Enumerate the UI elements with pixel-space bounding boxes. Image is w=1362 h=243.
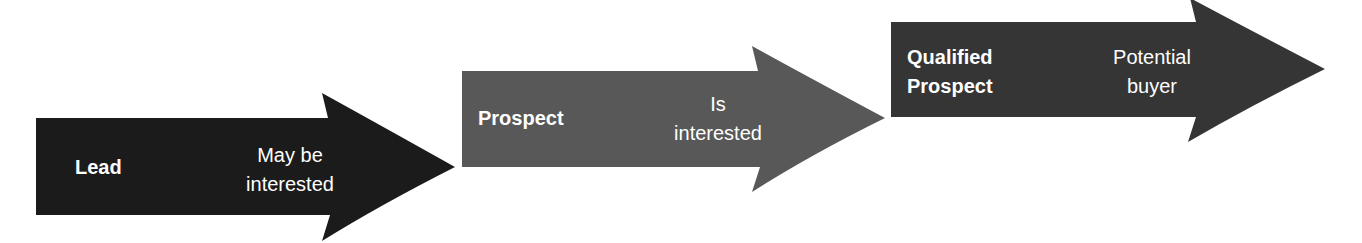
stage-name-prospect: Prospect: [478, 104, 564, 133]
description-line: interested: [220, 170, 360, 199]
stage-name-text: Prospect: [907, 72, 993, 101]
stage-name-text: Lead: [75, 156, 122, 178]
description-line: Is: [648, 90, 788, 119]
stage-description-qualified-prospect: Potential buyer: [1082, 43, 1222, 101]
description-line: buyer: [1082, 72, 1222, 101]
description-line: May be: [220, 141, 360, 170]
stage-description-prospect: Is interested: [648, 90, 788, 148]
stage-name-text: Prospect: [478, 107, 564, 129]
stage-name-qualified-prospect: Qualified Prospect: [907, 43, 993, 101]
description-line: interested: [648, 119, 788, 148]
stage-description-lead: May be interested: [220, 141, 360, 199]
description-line: Potential: [1082, 43, 1222, 72]
stage-name-text: Qualified: [907, 43, 993, 72]
stage-name-lead: Lead: [75, 153, 122, 182]
